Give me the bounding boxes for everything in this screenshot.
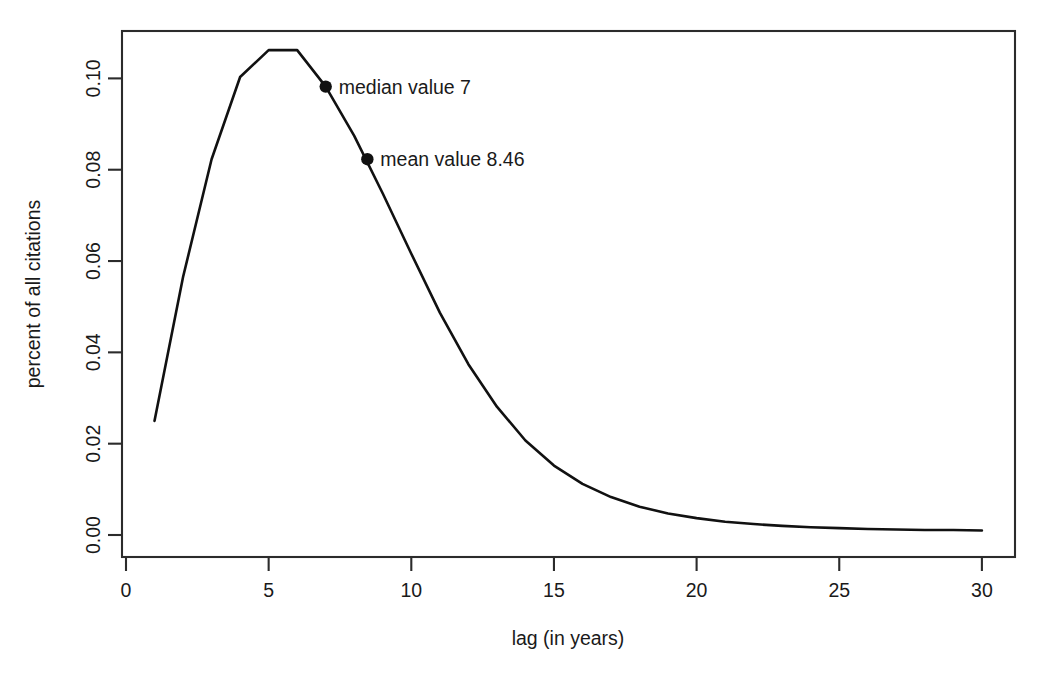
- mean-annotation-label: mean value 8.46: [380, 148, 524, 170]
- x-tick-label-30: 30: [971, 579, 993, 601]
- median-marker-dot: [320, 80, 332, 92]
- x-tick-label-15: 15: [543, 579, 565, 601]
- x-tick-label-20: 20: [686, 579, 708, 601]
- y-tick-label-0.06: 0.06: [82, 242, 104, 280]
- median-annotation-label: median value 7: [339, 76, 471, 98]
- x-tick-label-10: 10: [400, 579, 422, 601]
- y-tick-label-0.02: 0.02: [82, 425, 104, 463]
- citation-lag-line-chart: 051015202530 0.000.020.040.060.080.10 me…: [0, 0, 1055, 678]
- x-axis-title: lag (in years): [512, 627, 625, 649]
- chart-figure: 051015202530 0.000.020.040.060.080.10 me…: [0, 0, 1055, 678]
- x-tick-label-25: 25: [828, 579, 850, 601]
- y-tick-label-0.04: 0.04: [82, 333, 104, 371]
- y-tick-label-0.08: 0.08: [82, 151, 104, 189]
- chart-background: [0, 0, 1055, 678]
- x-tick-label-5: 5: [263, 579, 274, 601]
- y-tick-label-0.00: 0.00: [82, 516, 104, 554]
- y-axis-title: percent of all citations: [22, 199, 44, 388]
- x-tick-label-0: 0: [121, 579, 132, 601]
- mean-marker-dot: [361, 153, 373, 165]
- y-tick-label-0.10: 0.10: [82, 59, 104, 97]
